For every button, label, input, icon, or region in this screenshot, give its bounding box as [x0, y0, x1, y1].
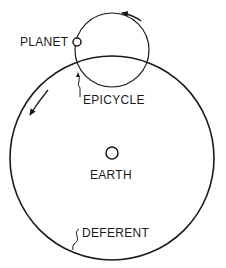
deferent-label: DEFERENT	[82, 226, 149, 240]
epicycle-leader-line	[78, 74, 80, 97]
deferent-leader-line	[73, 229, 79, 250]
earth-marker	[106, 147, 118, 159]
planet-label: PLANET	[20, 35, 69, 49]
epicycle-circle	[75, 13, 149, 87]
epicycle-diagram: PLANET EPICYCLE EARTH DEFERENT	[0, 0, 226, 268]
epicycle-label: EPICYCLE	[83, 93, 145, 107]
epicycle-leader-arrow-icon	[76, 72, 80, 77]
earth-label: EARTH	[90, 168, 132, 182]
planet-marker	[73, 38, 81, 46]
epicycle-direction-arrow-icon	[122, 13, 141, 21]
